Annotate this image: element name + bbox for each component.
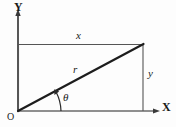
horizontal-side-label: x xyxy=(76,30,81,41)
origin-label: O xyxy=(7,112,14,122)
hypotenuse-label: r xyxy=(73,64,77,75)
vertical-side-label: y xyxy=(148,68,153,79)
y-axis-label: Y xyxy=(14,1,23,13)
coordinate-diagram-figure: Y X O x y r θ xyxy=(0,0,176,127)
angle-arc xyxy=(56,92,61,111)
diagram-canvas xyxy=(0,0,176,127)
angle-arc-group xyxy=(54,89,61,111)
angle-label: θ xyxy=(63,92,68,103)
x-axis-arrowhead xyxy=(153,109,160,114)
x-axis-label: X xyxy=(162,101,171,113)
x-axis-group xyxy=(17,109,160,114)
radius-line xyxy=(18,44,144,111)
